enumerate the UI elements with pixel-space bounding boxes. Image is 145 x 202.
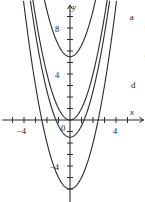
y-axis-label: y	[72, 3, 76, 12]
y-tick-label-8: 8	[55, 25, 59, 34]
x-axis-label: x	[130, 108, 134, 117]
y-tick-label-neg4: −4	[50, 163, 59, 172]
x-tick-label-4: 4	[113, 127, 117, 136]
parabola-graph-figure: x y 0 8 4 −4 −4 4 a b c d	[0, 0, 145, 202]
x-tick-label-neg4: −4	[17, 127, 26, 136]
y-tick-label-4: 4	[55, 71, 59, 80]
origin-label: 0	[61, 124, 65, 133]
curve-label-a: a	[130, 13, 134, 22]
curve-label-d: d	[131, 81, 136, 90]
plot-canvas	[0, 0, 145, 202]
